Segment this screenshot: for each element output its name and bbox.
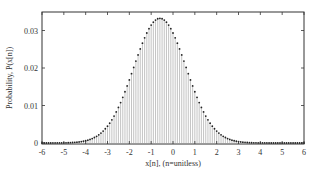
x-tick-label: -5 bbox=[60, 148, 67, 157]
x-axis-ticks: -6-5-4-3-2-10123456 bbox=[39, 12, 306, 157]
x-tick-label: -6 bbox=[39, 148, 46, 157]
x-tick-label: -3 bbox=[104, 148, 111, 157]
y-tick-label: 0.03 bbox=[24, 27, 38, 36]
x-tick-label: 3 bbox=[237, 148, 241, 157]
stem-series bbox=[42, 18, 304, 143]
x-tick-label: 5 bbox=[280, 148, 284, 157]
x-tick-label: 1 bbox=[193, 148, 197, 157]
y-tick-label: 0.02 bbox=[24, 64, 38, 73]
y-tick-label: 0.01 bbox=[24, 102, 38, 111]
y-tick-label: 0 bbox=[34, 139, 38, 148]
x-tick-label: 0 bbox=[171, 148, 175, 157]
x-axis-label: x[n], (n=unitless) bbox=[145, 159, 201, 168]
x-tick-label: -2 bbox=[126, 148, 133, 157]
x-tick-label: 2 bbox=[215, 148, 219, 157]
x-tick-label: 4 bbox=[258, 148, 262, 157]
x-tick-label: 6 bbox=[302, 148, 306, 157]
probability-stem-chart: -6-5-4-3-2-10123456 00.010.020.03 x[n], … bbox=[0, 0, 317, 175]
x-tick-label: -4 bbox=[82, 148, 89, 157]
y-axis-label: Probability, P(x[n]) bbox=[5, 47, 14, 109]
x-tick-label: -1 bbox=[148, 148, 155, 157]
